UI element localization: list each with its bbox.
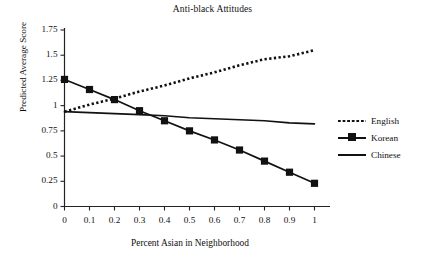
series-line-english xyxy=(65,50,315,112)
y-tick-label: 1.75 xyxy=(24,24,58,34)
x-tick-label: 0.8 xyxy=(253,215,277,225)
data-point-marker xyxy=(286,169,293,176)
data-point-marker xyxy=(86,86,93,93)
legend-item-label: English xyxy=(371,116,399,126)
square-marker-line-icon xyxy=(337,132,367,144)
data-point-marker xyxy=(136,107,143,114)
x-tick-label: 0.7 xyxy=(228,215,252,225)
legend-item-label: Korean xyxy=(371,133,398,143)
y-tick-label: 0 xyxy=(24,201,58,211)
chart-figure: Anti-black Attitudes Predicted Average S… xyxy=(0,0,425,263)
series-line-chinese xyxy=(65,112,315,124)
legend-item-label: Chinese xyxy=(371,150,401,160)
y-tick-label: 1.25 xyxy=(24,74,58,84)
y-tick-label: 1.5 xyxy=(24,49,58,59)
data-point-marker xyxy=(61,76,68,83)
x-tick-label: 0.4 xyxy=(153,215,177,225)
x-axis-ticks xyxy=(65,207,315,211)
series-layer xyxy=(61,50,318,187)
data-point-marker xyxy=(236,146,243,153)
data-point-marker xyxy=(161,117,168,124)
data-point-marker xyxy=(311,180,318,187)
x-tick-label: 0.6 xyxy=(203,215,227,225)
dotted-line-icon xyxy=(337,115,367,127)
data-point-marker xyxy=(261,158,268,165)
data-point-marker xyxy=(186,127,193,134)
y-tick-label: 0.75 xyxy=(24,125,58,135)
x-tick-label: 0.2 xyxy=(103,215,127,225)
x-tick-label: 1 xyxy=(303,215,327,225)
x-tick-label: 0 xyxy=(53,215,77,225)
data-point-marker xyxy=(111,96,118,103)
y-tick-label: 1 xyxy=(24,100,58,110)
x-tick-label: 0.5 xyxy=(178,215,202,225)
y-tick-label: 0.25 xyxy=(24,175,58,185)
legend: English Korean Chinese xyxy=(337,112,401,163)
legend-item-chinese[interactable]: Chinese xyxy=(337,146,401,163)
x-tick-label: 0.1 xyxy=(78,215,102,225)
x-tick-label: 0.9 xyxy=(278,215,302,225)
solid-line-icon xyxy=(337,149,367,161)
data-point-marker xyxy=(211,136,218,143)
legend-item-english[interactable]: English xyxy=(337,112,401,129)
x-tick-label: 0.3 xyxy=(128,215,152,225)
legend-item-korean[interactable]: Korean xyxy=(337,129,401,146)
y-tick-label: 0.5 xyxy=(24,150,58,160)
